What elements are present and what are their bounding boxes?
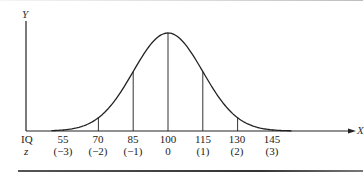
- bottom-rule: [18, 170, 363, 172]
- y-axis-label: Y: [22, 9, 28, 20]
- iq-tick-label: 85: [128, 134, 139, 145]
- iq-tick-label: 130: [229, 134, 246, 145]
- iq-tick-label: 70: [93, 134, 104, 145]
- sd-vertical-lines: [64, 33, 273, 131]
- z-tick-label: (−3): [53, 146, 72, 157]
- z-row-label: z: [24, 146, 28, 157]
- z-tick-label: (−2): [88, 146, 107, 157]
- iq-tick-label: 55: [58, 134, 69, 145]
- z-tick-label: (1): [197, 146, 210, 157]
- iq-tick-label: 145: [264, 134, 281, 145]
- iq-tick-label: 115: [195, 134, 211, 145]
- x-axis-label: X: [357, 125, 364, 136]
- iq-row-label: IQ: [21, 134, 33, 145]
- z-tick-label: (2): [231, 146, 244, 157]
- iq-tick-label: 100: [160, 134, 177, 145]
- x-axis-arrow-icon: [348, 129, 356, 134]
- normal-curve: [51, 33, 291, 131]
- z-tick-label: 0: [165, 146, 171, 157]
- z-tick-label: (−1): [123, 146, 142, 157]
- z-tick-label: (3): [266, 146, 279, 157]
